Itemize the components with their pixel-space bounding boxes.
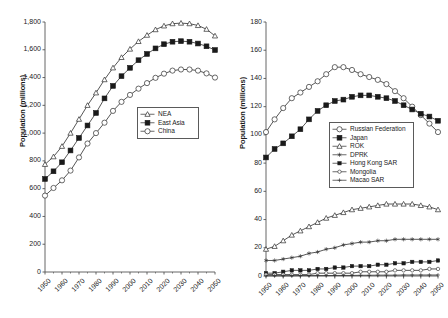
y-tick-label: 600 bbox=[29, 184, 41, 191]
data-point bbox=[136, 86, 141, 91]
data-point bbox=[94, 111, 99, 116]
legend-item-macao-sar[interactable]: Macao SAR bbox=[332, 176, 410, 185]
data-point bbox=[368, 270, 371, 273]
data-point bbox=[342, 266, 345, 269]
y-tick-label: 800 bbox=[29, 156, 41, 163]
legend-label: Hong Kong SAR bbox=[350, 159, 397, 168]
data-point bbox=[384, 81, 389, 86]
data-point bbox=[102, 120, 107, 125]
legend-item-russian-federation[interactable]: Russian Federation bbox=[332, 125, 410, 134]
legend-label: Russian Federation bbox=[350, 125, 405, 134]
data-point bbox=[385, 273, 389, 277]
data-point bbox=[281, 238, 286, 243]
data-point bbox=[359, 273, 363, 277]
data-point bbox=[272, 117, 277, 122]
data-point bbox=[332, 65, 337, 70]
data-point bbox=[358, 72, 363, 77]
legend-marker-asterisk-icon bbox=[332, 151, 348, 159]
y-tick-label: 0 bbox=[258, 272, 262, 279]
legend-item-japan[interactable]: Japan bbox=[332, 134, 410, 143]
data-point bbox=[85, 141, 90, 146]
data-point bbox=[436, 259, 439, 262]
data-point bbox=[410, 107, 415, 112]
legend-label: Mongolia bbox=[350, 168, 376, 177]
data-point bbox=[204, 27, 209, 32]
data-point bbox=[43, 177, 48, 182]
legend-item-east-asia[interactable]: East Asia bbox=[140, 119, 195, 128]
data-point bbox=[85, 103, 90, 108]
y-tick-label: 1,800 bbox=[23, 18, 41, 25]
data-point bbox=[264, 155, 269, 160]
legend-label: DPRK bbox=[350, 151, 368, 160]
data-point bbox=[428, 267, 431, 270]
data-point bbox=[376, 270, 379, 273]
legend-item-hong-kong-sar[interactable]: Hong Kong SAR bbox=[332, 159, 410, 168]
data-point bbox=[411, 260, 414, 263]
legend-item-china[interactable]: China bbox=[140, 127, 195, 136]
y-tick-label: 140 bbox=[250, 74, 262, 81]
data-point bbox=[341, 65, 346, 70]
data-point bbox=[393, 269, 396, 272]
legend-item-dprk[interactable]: DPRK bbox=[332, 151, 410, 160]
data-point bbox=[349, 67, 354, 72]
legend-marker-open-triangle-icon bbox=[140, 110, 156, 118]
data-point bbox=[315, 220, 320, 225]
data-point bbox=[419, 269, 422, 272]
data-point bbox=[76, 155, 81, 160]
data-point bbox=[195, 68, 200, 73]
data-point bbox=[68, 131, 73, 136]
data-point bbox=[170, 39, 175, 44]
data-point bbox=[281, 141, 286, 146]
y-tick-label: 40 bbox=[254, 215, 262, 222]
data-point bbox=[307, 269, 310, 272]
data-point bbox=[375, 94, 380, 99]
data-point bbox=[427, 114, 432, 119]
data-point bbox=[307, 117, 312, 122]
data-point bbox=[136, 58, 141, 63]
data-point bbox=[324, 103, 329, 108]
y-tick-label: 1,400 bbox=[23, 73, 41, 80]
data-point bbox=[77, 136, 82, 141]
y-tick-label: 1,000 bbox=[23, 129, 41, 136]
data-point bbox=[427, 121, 432, 126]
data-point bbox=[59, 144, 64, 149]
data-point bbox=[324, 72, 329, 77]
data-point bbox=[384, 96, 389, 101]
data-point bbox=[325, 267, 328, 270]
y-tick-label: 100 bbox=[250, 130, 262, 137]
data-point bbox=[358, 93, 363, 98]
data-point bbox=[428, 260, 431, 263]
y-tick-label: 60 bbox=[254, 187, 262, 194]
data-point bbox=[419, 260, 422, 263]
data-point bbox=[42, 193, 47, 198]
legend-marker-open-circle-icon bbox=[140, 127, 156, 135]
data-point bbox=[289, 232, 294, 237]
data-point bbox=[436, 267, 439, 270]
legend-item-nea[interactable]: NEA bbox=[140, 110, 195, 119]
data-point bbox=[393, 99, 398, 104]
data-point bbox=[306, 84, 311, 89]
legend-label: NEA bbox=[158, 110, 171, 119]
data-point bbox=[316, 267, 319, 270]
y-tick-label: 160 bbox=[250, 46, 262, 53]
data-point bbox=[93, 131, 98, 136]
data-point bbox=[51, 169, 56, 174]
legend-label: Japan bbox=[350, 134, 367, 143]
data-point bbox=[272, 244, 277, 249]
legend-item-rok[interactable]: ROK bbox=[332, 142, 410, 151]
legend-marker-filled-square-small-icon bbox=[332, 159, 348, 167]
data-point bbox=[204, 71, 209, 76]
y-tick-label: 180 bbox=[250, 18, 262, 25]
data-point bbox=[76, 117, 81, 122]
chart-legend: NEAEast AsiaChina bbox=[137, 107, 199, 139]
chart-panel-right: Population (millions) 020406080100120140… bbox=[224, 0, 448, 318]
y-tick-label: 20 bbox=[254, 243, 262, 250]
data-point bbox=[136, 39, 141, 44]
data-point bbox=[204, 44, 209, 49]
data-point bbox=[289, 134, 294, 139]
legend-item-mongolia[interactable]: Mongolia bbox=[332, 168, 410, 177]
data-point bbox=[298, 127, 303, 132]
legend-marker-plus-icon bbox=[332, 176, 348, 184]
data-point bbox=[436, 118, 441, 123]
data-point bbox=[435, 129, 440, 134]
